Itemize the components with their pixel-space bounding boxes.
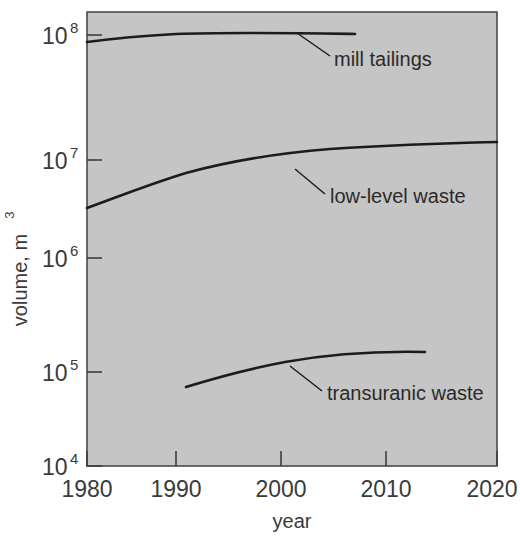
x-tick-label-1980: 1980 (61, 476, 112, 502)
y-axis-title-exponent: 3 (2, 211, 17, 218)
y-tick-label-1e8: 10 (42, 23, 68, 49)
x-tick-label-2020: 2020 (466, 476, 517, 502)
x-tick-label-1990: 1990 (150, 476, 201, 502)
y-tick-labels: 10 8 10 7 10 6 10 5 10 4 (42, 19, 78, 480)
y-tick-exp-1e7: 7 (70, 144, 78, 161)
x-axis-title: year (273, 510, 312, 532)
y-tick-label-1e7: 10 (42, 148, 68, 174)
annotation-transuranic-waste: transuranic waste (327, 382, 484, 404)
annotation-low-level-waste: low-level waste (330, 185, 466, 207)
annotation-mill-tailings: mill tailings (334, 48, 432, 70)
x-tick-label-2010: 2010 (360, 476, 411, 502)
x-tick-labels: 1980 1990 2000 2010 2020 (61, 476, 517, 502)
y-tick-exp-1e5: 5 (70, 356, 78, 373)
chart-page: 10 8 10 7 10 6 10 5 10 4 1980 1990 2000 … (0, 0, 520, 549)
y-tick-exp-1e8: 8 (70, 19, 78, 36)
log-line-chart: 10 8 10 7 10 6 10 5 10 4 1980 1990 2000 … (0, 0, 520, 549)
y-tick-label-1e6: 10 (42, 246, 68, 272)
y-tick-label-1e5: 10 (42, 360, 68, 386)
y-axis-title: volume, m (9, 234, 31, 326)
x-tick-label-2000: 2000 (255, 476, 306, 502)
y-tick-exp-1e6: 6 (70, 242, 78, 259)
y-tick-exp-1e4: 4 (70, 450, 78, 467)
